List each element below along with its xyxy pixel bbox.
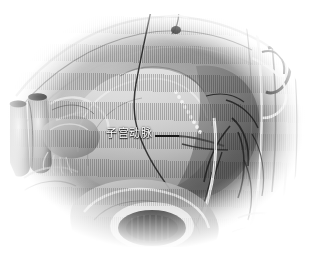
leader-line-uterine-artery: [155, 135, 179, 137]
right-margin: [304, 0, 312, 256]
illustration-plate: [0, 0, 312, 256]
top-margin: [0, 0, 312, 14]
anatomy-linework: [0, 0, 312, 256]
clamp-shadow: [171, 26, 181, 34]
label-uterine-artery: 子宫动脉: [106, 127, 152, 140]
bottom-margin: [0, 247, 312, 256]
left-margin: [0, 0, 10, 256]
anatomical-illustration-figure: 子宫动脉: [0, 0, 312, 256]
canal-lumen: [126, 215, 178, 241]
